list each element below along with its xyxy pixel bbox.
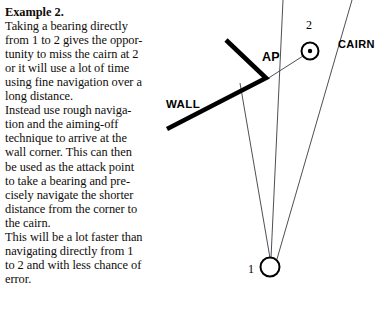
wall-label: WALL	[166, 98, 200, 110]
example-figure-page: Example 2. Taking a bearing directly fro…	[0, 0, 384, 309]
bearing-line-to-attack-point	[240, 83, 270, 258]
bearing-line-direct-left	[271, 0, 283, 258]
point-one-label: 1	[248, 262, 254, 277]
point-one-marker	[261, 258, 280, 277]
wall-shape	[167, 40, 266, 129]
paragraph-3: This will be a lot faster than navigatin…	[5, 230, 165, 286]
point-two-label: 2	[306, 18, 312, 33]
attack-point-label: AP	[262, 50, 280, 64]
page-title: Example 2.	[5, 5, 165, 19]
cairn-marker-dot	[308, 49, 312, 53]
cairn-marker-outer	[302, 43, 319, 60]
paragraph-1: Taking a bearing directly from 1 to 2 gi…	[5, 19, 165, 103]
paragraph-2: Instead use rough naviga- tion and the a…	[5, 103, 165, 229]
explanation-text-block: Example 2. Taking a bearing directly fro…	[5, 5, 165, 286]
cairn-label: CAIRN	[338, 38, 375, 50]
